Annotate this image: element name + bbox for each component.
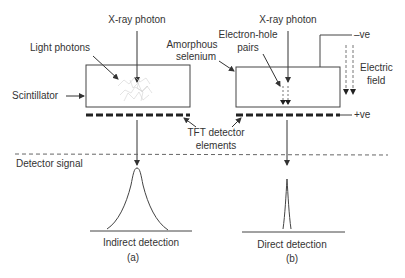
tft-arrow-left	[184, 118, 196, 127]
tag-b: (b)	[286, 253, 298, 264]
light-photons-label: Light photons	[30, 42, 90, 53]
caption-indirect: Indirect detection	[103, 237, 179, 248]
sharp-signal-spike	[283, 179, 291, 229]
tag-a: (a)	[127, 252, 139, 263]
broad-signal-curve	[107, 168, 168, 230]
light-photons-arrow	[93, 56, 118, 79]
electric-field-label-2: field	[367, 75, 385, 86]
field-arrowheads	[343, 89, 356, 95]
shared-labels: TFT detector elements Detector signal	[15, 118, 388, 169]
electron-hole-arrow	[263, 54, 280, 86]
caption-direct: Direct detection	[257, 239, 326, 250]
positive-label: +ve	[354, 109, 371, 120]
tft-label-2: elements	[196, 140, 237, 151]
electric-field-label-1: Electric	[360, 62, 393, 73]
amorphous-selenium-label-1: Amorphous	[166, 39, 217, 50]
tft-label-1: TFT detector	[187, 127, 245, 138]
electron-hole-label-2: pairs	[237, 42, 259, 53]
negative-electrode-line	[320, 35, 352, 67]
scintillator-box	[86, 65, 190, 107]
detector-divider	[15, 154, 388, 155]
selenium-arrow	[219, 61, 234, 71]
light-scatter-icon	[118, 77, 152, 101]
detection-diagram: X-ray photon Light photons Scintillator …	[0, 0, 405, 278]
scintillator-label: Scintillator	[12, 90, 59, 101]
panel-indirect: X-ray photon Light photons Scintillator …	[12, 14, 192, 263]
charge-arrowheads	[280, 100, 291, 105]
xray-photon-label-a: X-ray photon	[108, 14, 165, 25]
detector-signal-label: Detector signal	[16, 158, 83, 169]
amorphous-selenium-label-2: selenium	[176, 51, 216, 62]
panel-direct: X-ray photon Electron-hole pairs Amorpho…	[166, 14, 392, 264]
electron-hole-label-1: Electron-hole	[219, 29, 278, 40]
xray-photon-label-b: X-ray photon	[259, 14, 316, 25]
negative-label: –ve	[354, 29, 371, 40]
tft-arrow-right	[232, 118, 241, 127]
